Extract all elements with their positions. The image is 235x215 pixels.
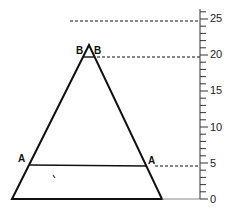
tick-label-15: 15 xyxy=(210,84,222,96)
tick-label-10: 10 xyxy=(210,121,222,133)
label-a-left: A xyxy=(18,153,25,164)
label-a-right: A xyxy=(148,155,155,166)
tick-label-0: 0 xyxy=(210,193,216,205)
tick-label-20: 20 xyxy=(210,48,222,60)
tick-label-25: 25 xyxy=(210,12,222,24)
triangle xyxy=(12,45,162,199)
axis-ticks xyxy=(200,12,208,199)
diagram-canvas: B B A A 0 5 10 15 20 25 xyxy=(0,0,235,215)
label-b-right: B xyxy=(94,45,101,56)
label-b-left: B xyxy=(76,45,83,56)
tick-label-5: 5 xyxy=(210,157,216,169)
height-scale: 0 5 10 15 20 25 xyxy=(200,9,222,205)
stray-mark xyxy=(53,175,55,178)
aa-line xyxy=(30,165,147,166)
